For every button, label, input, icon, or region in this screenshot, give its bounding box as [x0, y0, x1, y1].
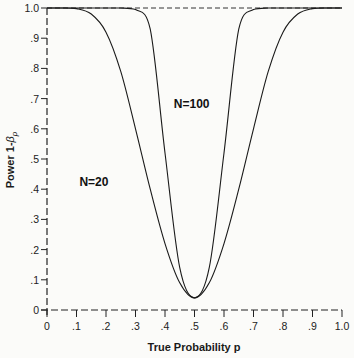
y-axis: [41, 8, 47, 315]
x-tick-label: 1.0: [335, 320, 350, 332]
curves: [47, 8, 342, 298]
y-tick-label: .3: [30, 213, 39, 225]
y-tick-label: .7: [30, 93, 39, 105]
x-axis: [41, 310, 342, 317]
x-axis-title: True Probability p: [148, 341, 241, 353]
curve-label: N=20: [79, 175, 108, 189]
y-tick-label: .4: [30, 183, 39, 195]
x-tick-label: .1: [72, 320, 81, 332]
curve-label: N=100: [174, 97, 210, 111]
y-axis-title-sub: p: [10, 131, 19, 137]
x-tick-label: .7: [249, 320, 258, 332]
x-tick-label: .2: [102, 320, 111, 332]
y-tick-label: .1: [30, 274, 39, 286]
power-curve-n-20: [47, 8, 342, 298]
x-tick-label: .4: [161, 320, 170, 332]
y-tick-label: 0: [33, 304, 39, 316]
y-tick-label: .9: [30, 32, 39, 44]
y-tick-labels: 0.1.2.3.4.5.6.7.8.91.0: [24, 2, 39, 316]
svg-text:Power 1-βp: Power 1-βp: [4, 131, 19, 188]
y-tick-label: .6: [30, 123, 39, 135]
y-tick-label: 1.0: [24, 2, 39, 14]
power-curve-chart: 0.1.2.3.4.5.6.7.8.91.0 0.1.2.3.4.5.6.7.8…: [0, 0, 354, 358]
power-curve-n-100: [47, 8, 342, 298]
x-tick-label: .9: [308, 320, 317, 332]
y-axis-title: Power 1-βp: [4, 131, 19, 188]
x-tick-label: .8: [279, 320, 288, 332]
curve-labels: N=100N=20: [79, 97, 209, 190]
y-tick-label: .5: [30, 153, 39, 165]
x-tick-label: .6: [220, 320, 229, 332]
x-tick-label: .5: [190, 320, 199, 332]
x-tick-label: 0: [44, 320, 50, 332]
x-tick-label: .3: [131, 320, 140, 332]
y-tick-label: .2: [30, 244, 39, 256]
y-tick-label: .8: [30, 62, 39, 74]
y-axis-title-main: Power 1-: [4, 142, 16, 188]
x-tick-labels: 0.1.2.3.4.5.6.7.8.91.0: [44, 320, 349, 332]
